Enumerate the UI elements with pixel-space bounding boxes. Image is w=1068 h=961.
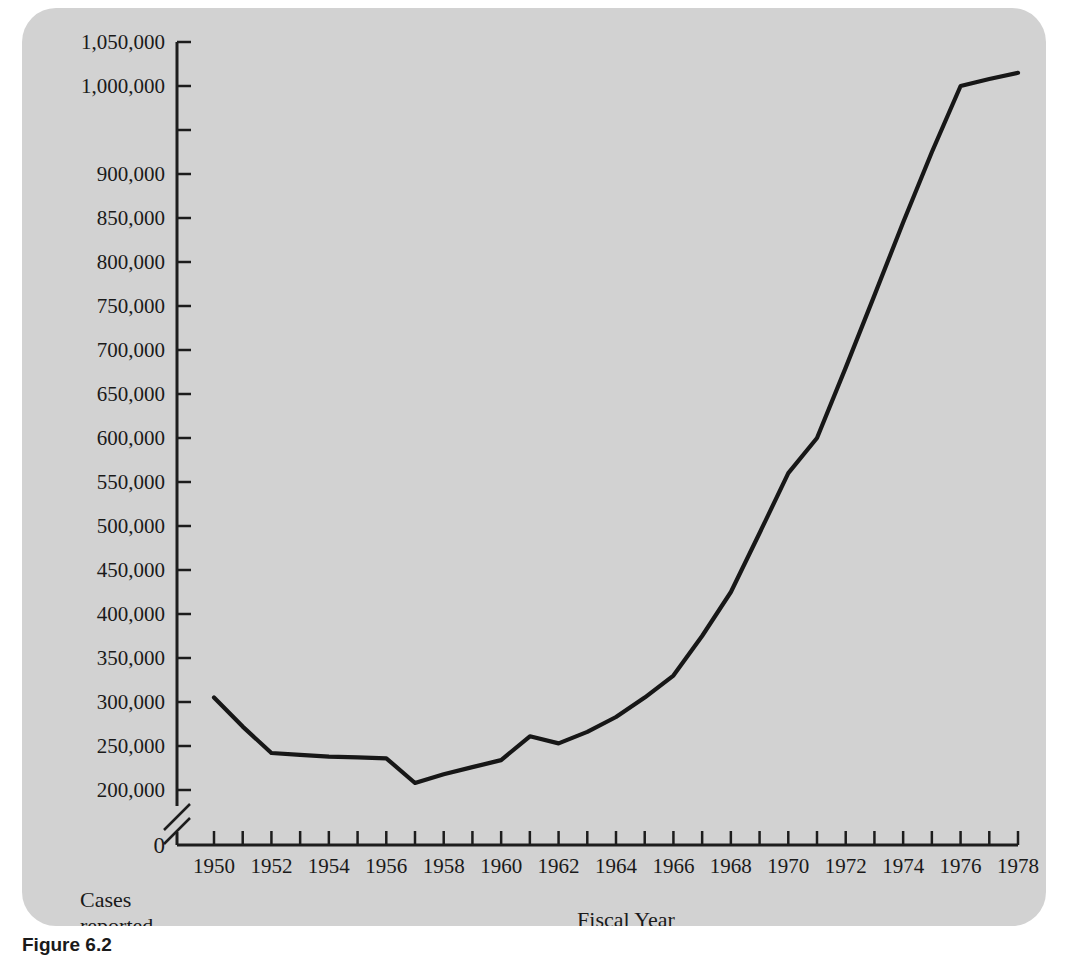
- y-axis-tick-label: 1,000,000: [81, 74, 165, 98]
- x-axis-tick-label: 1972: [825, 854, 867, 878]
- figure-caption: Figure 6.2: [22, 934, 112, 956]
- figure-panel: 200,000250,000300,000350,000400,000450,0…: [22, 8, 1046, 926]
- x-axis-tick-label: 1968: [710, 854, 752, 878]
- y-axis-tick-label: 650,000: [97, 382, 165, 406]
- y-axis-tick-label: 500,000: [97, 514, 165, 538]
- y-axis-tick-label: 250,000: [97, 734, 165, 758]
- x-axis-tick-label: 1950: [193, 854, 235, 878]
- y-axis-tick-label: 550,000: [97, 470, 165, 494]
- x-axis-tick-label: 1976: [940, 854, 982, 878]
- x-axis-ticks: 1950195219541956195819601962196419661968…: [193, 831, 1039, 878]
- y-axis-title-line1: Cases: [80, 887, 131, 912]
- y-axis-ticks: 200,000250,000300,000350,000400,000450,0…: [81, 30, 191, 802]
- x-axis-tick-label: 1952: [250, 854, 292, 878]
- line-chart-svg: 200,000250,000300,000350,000400,000450,0…: [22, 8, 1046, 926]
- y-axis-tick-label: 300,000: [97, 690, 165, 714]
- y-axis-tick-label: 200,000: [97, 778, 165, 802]
- y-axis-tick-label: 750,000: [97, 294, 165, 318]
- x-axis-tick-label: 1964: [595, 854, 638, 878]
- x-axis-tick-label: 1956: [365, 854, 407, 878]
- y-axis-title-line2: reported: [80, 913, 153, 926]
- data-series-line: [214, 73, 1018, 783]
- x-axis-tick-label: 1966: [652, 854, 694, 878]
- x-axis-tick-label: 1960: [480, 854, 522, 878]
- y-axis-zero-label: 0: [154, 833, 166, 858]
- x-axis-tick-label: 1970: [767, 854, 809, 878]
- chart-plot-area: 200,000250,000300,000350,000400,000450,0…: [22, 8, 1046, 926]
- y-axis-tick-label: 900,000: [97, 162, 165, 186]
- y-axis-tick-label: 1,050,000: [81, 30, 165, 54]
- x-axis-tick-label: 1978: [997, 854, 1039, 878]
- x-axis-title: Fiscal Year: [577, 907, 675, 926]
- x-axis-tick-label: 1958: [423, 854, 465, 878]
- x-axis-tick-label: 1962: [538, 854, 580, 878]
- x-axis-tick-label: 1974: [882, 854, 925, 878]
- y-axis-tick-label: 850,000: [97, 206, 165, 230]
- y-axis-tick-label: 800,000: [97, 250, 165, 274]
- y-axis-tick-label: 400,000: [97, 602, 165, 626]
- y-axis-tick-label: 350,000: [97, 646, 165, 670]
- y-axis-tick-label: 600,000: [97, 426, 165, 450]
- x-axis-tick-label: 1954: [308, 854, 351, 878]
- y-axis-tick-label: 450,000: [97, 558, 165, 582]
- y-axis-tick-label: 700,000: [97, 338, 165, 362]
